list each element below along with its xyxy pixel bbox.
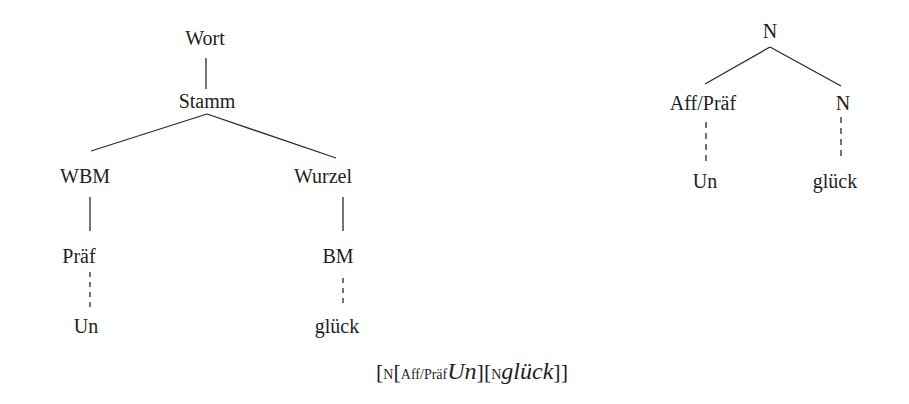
node-n: N [836,92,850,114]
node-n-root: N [763,20,777,42]
label-aff-praef: Aff/Präf [401,367,447,382]
node-wbm: WBM [60,165,110,187]
bracket-mid: ][ [477,359,492,384]
node-wort: Wort [185,27,225,49]
node-wurzel: Wurzel [294,165,352,187]
node-aff-praef: Aff/Präf [670,92,736,114]
bracket-notation: [N[Aff/PräfUn][Nglück]] [376,358,568,385]
word-glueck: glück [501,358,553,384]
word-un: Un [447,358,476,384]
node-stamm: Stamm [179,90,236,112]
leaf-glueck: glück [315,315,359,337]
label-n2: N [491,367,501,382]
leaf-un: Un [74,315,98,337]
bracket-close: ]] [553,359,568,384]
leaf-un-right: Un [693,170,717,192]
leaf-glueck-right: glück [813,170,857,192]
node-praef: Präf [62,245,95,267]
label-n: N [383,367,393,382]
tree-edges [0,0,909,404]
node-bm: BM [322,245,353,267]
bracket-open: [ [393,359,400,384]
